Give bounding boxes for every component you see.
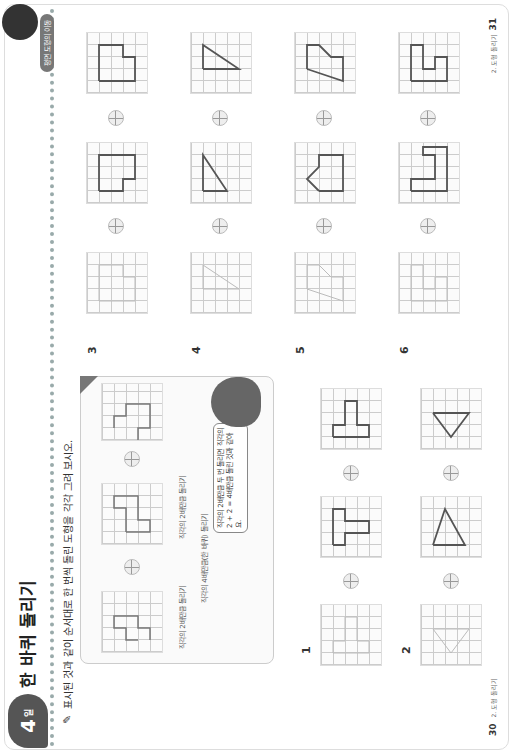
shape-grid-2a xyxy=(420,496,482,558)
shape-grid-4a xyxy=(190,142,252,204)
answer-grid-5[interactable] xyxy=(294,252,356,314)
rotation-dial-icon xyxy=(316,218,332,234)
page-title: 한 바퀴 돌리기 xyxy=(14,580,39,688)
rotation-dial-icon xyxy=(443,465,459,481)
rotation-dial-icon xyxy=(343,465,359,481)
problem-number: 4 xyxy=(190,346,203,354)
rotation-dial-icon xyxy=(124,451,140,467)
rotation-dial-icon xyxy=(443,573,459,589)
shape-grid-1b xyxy=(320,388,382,450)
problem-number: 1 xyxy=(300,646,313,654)
rotation-dial-icon xyxy=(108,110,124,126)
footer-right-label: 2. 도형 돌리기 xyxy=(490,34,497,74)
shape-grid-5b xyxy=(294,32,356,94)
answer-grid-4[interactable] xyxy=(190,252,252,314)
shape-grid-2b xyxy=(420,388,482,450)
problem-number: 3 xyxy=(86,346,99,354)
rotation-dial-icon xyxy=(420,110,436,126)
footer-left: 302. 도형 돌리기 xyxy=(488,678,498,736)
speech-bubble: 직각의 2배만큼 두 번 돌리면 직각의 2 + 2 = 4배만큼 돌린 것과 … xyxy=(213,423,248,533)
section-tag: 평면 도형의 이동 xyxy=(40,14,54,72)
problem-number: 5 xyxy=(294,346,307,354)
rotation-dial-icon xyxy=(212,110,228,126)
lesson-badge: 4일 xyxy=(8,694,48,748)
shape-grid-6a xyxy=(398,142,460,204)
page-number-right: 31 xyxy=(488,18,498,31)
shape-grid-6b xyxy=(398,32,460,94)
shape-grid-1a xyxy=(320,496,382,558)
lesson-number: 4 xyxy=(16,719,40,733)
shape-grid-5a xyxy=(294,142,356,204)
page-fold-corner xyxy=(80,376,98,394)
answer-grid-3[interactable] xyxy=(86,252,148,314)
dotted-divider xyxy=(50,8,54,746)
problem-number: 2 xyxy=(400,646,413,654)
mascot-monster-icon xyxy=(211,377,261,427)
footer-right: 2. 도형 돌리기 31 xyxy=(488,18,498,79)
workbook-spread: 4일 한 바퀴 돌리기 평면 도형의 이동 ✎ 표시된 것과 같이 순서대로 한… xyxy=(0,0,513,754)
shape-grid-3b xyxy=(86,32,148,94)
shape-grid-4b xyxy=(190,32,252,94)
shape-grid-3a xyxy=(86,142,148,204)
example-box: 직각의 2배만큼 돌리기 직각의 2배만큼 돌리기 직각의 4배만큼(한 바퀴)… xyxy=(80,376,274,664)
step2-label: 직각의 2배만큼 돌리기 xyxy=(177,476,187,539)
lesson-suffix: 일 xyxy=(22,709,35,717)
rotation-dial-icon xyxy=(343,573,359,589)
answer-grid-6[interactable] xyxy=(398,252,460,314)
example-grid-2 xyxy=(101,483,163,545)
rotation-dial-icon xyxy=(212,218,228,234)
rotation-dial-icon xyxy=(108,218,124,234)
problem-number: 6 xyxy=(398,346,411,354)
footer-left-label: 2. 도형 돌리기 xyxy=(490,678,497,718)
example-grid-1 xyxy=(101,591,163,653)
page-number-left: 30 xyxy=(488,723,498,736)
instruction: ✎ 표시된 것과 같이 순서대로 한 번씩 돌린 도형을 각각 그려 보시오. xyxy=(60,440,75,724)
rotation-dial-icon xyxy=(124,559,140,575)
answer-grid-2[interactable] xyxy=(420,604,482,666)
total-rotation-label: 직각의 4배만큼(한 바퀴) 돌리기 xyxy=(199,514,209,603)
rotation-dial-icon xyxy=(316,110,332,126)
pencil-icon: ✎ xyxy=(61,715,74,724)
example-grid-3 xyxy=(101,383,163,441)
answer-grid-1[interactable] xyxy=(320,604,382,666)
step1-label: 직각의 2배만큼 돌리기 xyxy=(177,586,187,649)
rotation-dial-icon xyxy=(420,218,436,234)
instruction-text: 표시된 것과 같이 순서대로 한 번씩 돌린 도형을 각각 그려 보시오. xyxy=(60,440,75,709)
mascot-umbrella-icon xyxy=(2,4,38,40)
